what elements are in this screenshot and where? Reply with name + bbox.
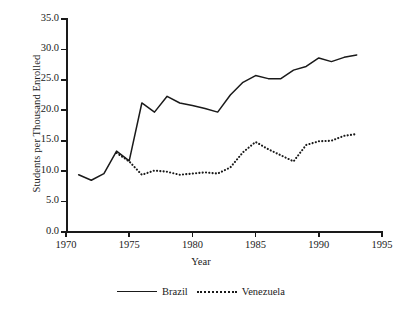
y-axis-label: Students per Thousand Enrolled [31, 24, 42, 224]
x-tick-mark [318, 232, 320, 237]
y-tick-mark [61, 109, 66, 111]
x-tick-label: 1985 [245, 239, 266, 250]
y-tick-label: 30.0 [41, 42, 59, 53]
legend-swatch-solid-icon [117, 291, 157, 292]
y-tick-mark [61, 79, 66, 81]
series-line-brazil [79, 55, 357, 180]
x-tick-label: 1980 [182, 239, 203, 250]
chart-figure: Students per Thousand Enrolled 0.05.010.… [0, 0, 402, 313]
x-axis-label: Year [0, 256, 402, 267]
y-tick-mark [61, 140, 66, 142]
x-tick-mark [192, 232, 194, 237]
y-tick-label: 20.0 [41, 103, 59, 114]
y-tick-label: 0.0 [46, 225, 59, 236]
y-tick-mark [61, 170, 66, 172]
y-tick-label: 15.0 [41, 133, 59, 144]
y-tick-mark [61, 49, 66, 51]
x-tick-label: 1970 [56, 239, 77, 250]
y-tick-label: 25.0 [41, 72, 59, 83]
legend-label-venezuela: Venezuela [242, 286, 285, 297]
x-tick-mark [128, 232, 130, 237]
legend-item-brazil: Brazil [117, 286, 188, 297]
legend-item-venezuela: Venezuela [197, 286, 285, 297]
x-tick-label: 1990 [308, 239, 329, 250]
y-tick-mark [61, 201, 66, 203]
series-line-venezuela [117, 134, 357, 175]
series-container [66, 19, 382, 232]
x-tick-label: 1975 [119, 239, 140, 250]
x-tick-mark [381, 232, 383, 237]
legend-label-brazil: Brazil [162, 286, 188, 297]
y-tick-mark [61, 18, 66, 20]
y-tick-label: 35.0 [41, 12, 59, 23]
plot-area: 0.05.010.015.020.025.030.035.01970197519… [66, 19, 382, 232]
x-tick-mark [65, 232, 67, 237]
legend-swatch-dotted-icon [197, 291, 237, 293]
chart-legend: Brazil Venezuela [0, 286, 402, 297]
y-tick-label: 10.0 [41, 164, 59, 175]
x-tick-label: 1995 [372, 239, 393, 250]
x-tick-mark [255, 232, 257, 237]
y-tick-label: 5.0 [46, 194, 59, 205]
